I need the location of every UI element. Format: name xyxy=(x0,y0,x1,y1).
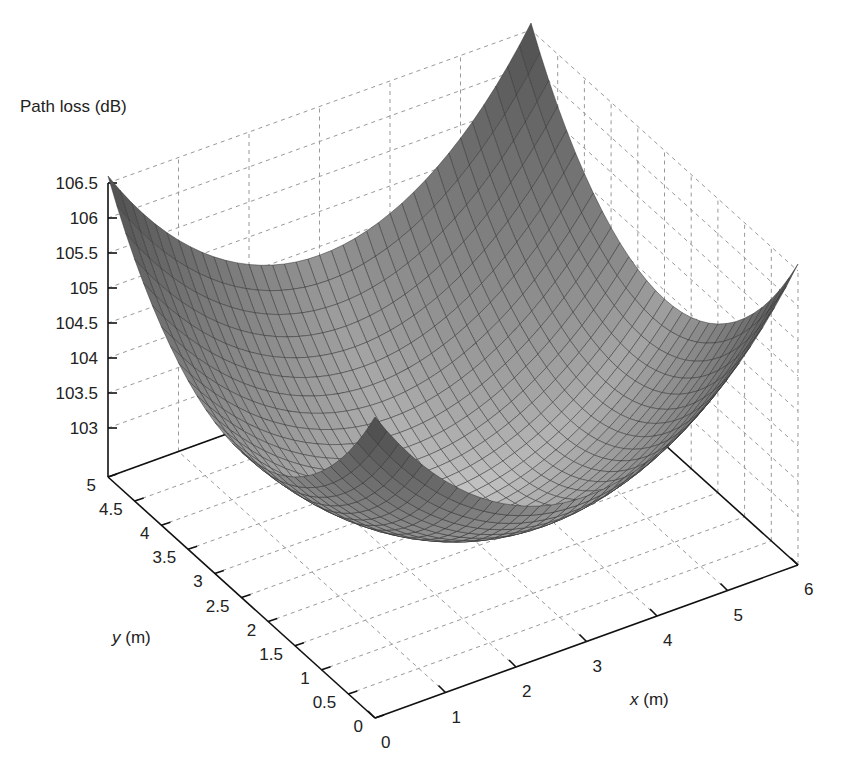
y-tick-label: 3.5 xyxy=(152,548,176,567)
x-tick xyxy=(580,635,587,642)
y-tick xyxy=(108,474,117,477)
y-tick xyxy=(348,691,357,694)
z-tick-label: 103.5 xyxy=(55,384,98,403)
y-tick-label: 4.5 xyxy=(99,500,123,519)
x-tick-label: 6 xyxy=(804,580,813,599)
surface-cell xyxy=(777,264,798,300)
floor-grid-line-y xyxy=(322,517,745,670)
x-axis-var: x xyxy=(629,690,639,709)
x-tick-label: 0 xyxy=(381,733,390,752)
y-tick-label: 2.5 xyxy=(206,597,230,616)
y-tick xyxy=(242,595,251,598)
x-tick xyxy=(650,609,657,616)
y-tick xyxy=(215,570,224,573)
x-axis-title: x (m) xyxy=(629,690,669,709)
x-tick xyxy=(368,711,375,718)
y-tick-label: 0.5 xyxy=(313,693,337,712)
z-tick-label: 103 xyxy=(70,419,98,438)
y-tick-label: 2 xyxy=(247,621,256,640)
z-tick-label: 105 xyxy=(70,279,98,298)
x-axis-unit: (m) xyxy=(639,690,669,709)
x-tick-label: 5 xyxy=(734,606,743,625)
y-axis-unit: (m) xyxy=(121,628,151,647)
y-tick-label: 1.5 xyxy=(259,645,283,664)
x-tick-label: 4 xyxy=(663,631,672,650)
z-tick-label: 105.5 xyxy=(55,244,98,263)
y-tick xyxy=(295,643,304,646)
y-tick-label: 4 xyxy=(140,524,149,543)
z-tick-label: 104 xyxy=(70,349,98,368)
y-tick xyxy=(188,546,197,549)
x-tick xyxy=(791,558,798,565)
x-tick xyxy=(721,584,728,591)
x-tick-label: 1 xyxy=(452,708,461,727)
z-tick-label: 106.5 xyxy=(55,174,98,193)
y-tick-label: 1 xyxy=(300,669,309,688)
surface-mesh xyxy=(108,23,798,542)
y-tick xyxy=(135,498,144,501)
z-axis-title: Path loss (dB) xyxy=(20,97,127,116)
y-tick xyxy=(375,715,384,718)
y-tick-label: 0 xyxy=(354,717,363,736)
y-axis-title: y (m) xyxy=(111,628,151,647)
x-tick xyxy=(439,686,446,693)
y-tick xyxy=(268,619,277,622)
path-loss-surface-chart: 012345600.511.522.533.544.55103103.51041… xyxy=(0,0,841,773)
z-tick-label: 106 xyxy=(70,209,98,228)
y-tick-label: 3 xyxy=(193,572,202,591)
y-tick xyxy=(161,522,170,525)
z-tick-label: 104.5 xyxy=(55,314,98,333)
x-tick-label: 2 xyxy=(522,682,531,701)
x-tick-label: 3 xyxy=(593,657,602,676)
y-tick-label: 5 xyxy=(87,476,96,495)
floor-grid-line-y xyxy=(348,541,771,694)
x-tick xyxy=(509,660,516,667)
y-tick xyxy=(322,667,331,670)
